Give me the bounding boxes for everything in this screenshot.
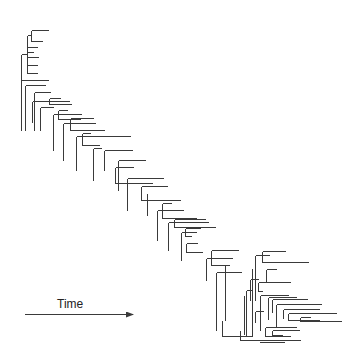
phylogenetic-tree xyxy=(0,0,346,355)
time-axis-label: Time xyxy=(57,297,83,311)
tree-branches xyxy=(22,31,342,343)
